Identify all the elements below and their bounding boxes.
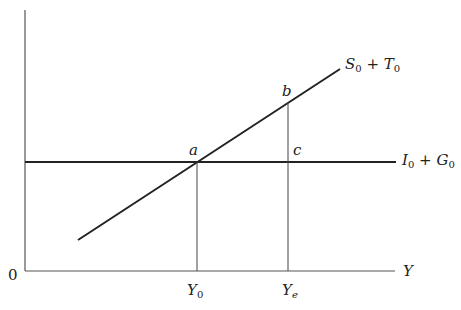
diagram-canvas bbox=[0, 0, 461, 310]
origin-label: 0 bbox=[8, 266, 18, 284]
point-c-label: c bbox=[293, 141, 301, 159]
tick-ye-label: Ye bbox=[282, 281, 298, 300]
injections-label: I0 + G0 bbox=[402, 151, 455, 170]
leakages-label: S0 + T0 bbox=[345, 55, 400, 74]
point-b-label: b bbox=[282, 82, 292, 100]
x-axis-label: Y bbox=[403, 262, 413, 280]
point-a-label: a bbox=[189, 141, 198, 159]
tick-y0-label: Y0 bbox=[187, 281, 203, 300]
